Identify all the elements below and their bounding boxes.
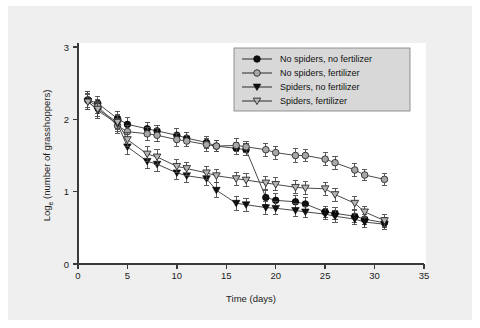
data-point-marker	[183, 138, 190, 145]
data-point-marker	[272, 149, 279, 156]
data-point-marker	[381, 176, 388, 183]
x-tick-label: 35	[419, 270, 430, 281]
x-tick-label: 5	[125, 270, 130, 281]
legend-label: No spiders, fertilizer	[280, 68, 360, 78]
data-point-marker	[322, 156, 329, 163]
data-point-marker	[213, 143, 220, 150]
data-point-marker	[254, 70, 261, 77]
y-tick-label: 2	[64, 114, 69, 125]
figure-container: 051015202530350123 Time (days)Loge (numb…	[0, 0, 480, 328]
legend-label: No spiders, no fertilizer	[280, 54, 372, 64]
chart-legend[interactable]: No spiders, no fertilizerNo spiders, fer…	[234, 48, 410, 111]
legend-label: Spiders, no fertilizer	[280, 82, 360, 92]
data-point-marker	[263, 194, 270, 201]
y-axis-title: Loge (number of grasshoppers)	[41, 90, 54, 222]
legend-label: Spiders, fertilizer	[280, 96, 347, 106]
data-point-marker	[263, 146, 270, 153]
data-point-marker	[332, 159, 339, 166]
data-point-marker	[292, 152, 299, 159]
data-point-marker	[174, 136, 181, 143]
data-point-marker	[302, 152, 309, 159]
data-point-marker	[352, 167, 359, 174]
x-tick-label: 0	[75, 270, 80, 281]
x-tick-label: 25	[320, 270, 331, 281]
data-point-marker	[254, 56, 261, 63]
y-tick-label: 0	[64, 259, 69, 270]
x-tick-label: 20	[270, 270, 281, 281]
x-tick-label: 15	[221, 270, 232, 281]
data-point-marker	[144, 131, 151, 138]
chart-canvas: 051015202530350123 Time (days)Loge (numb…	[0, 0, 480, 328]
data-point-marker	[203, 141, 210, 148]
y-tick-label: 1	[64, 186, 69, 197]
data-point-marker	[233, 142, 240, 149]
data-point-marker	[361, 172, 368, 179]
y-tick-label: 3	[64, 42, 69, 53]
x-axis-title: Time (days)	[226, 293, 276, 304]
x-tick-label: 10	[172, 270, 183, 281]
x-tick-label: 30	[369, 270, 380, 281]
data-point-marker	[243, 144, 250, 151]
data-point-marker	[154, 132, 161, 139]
